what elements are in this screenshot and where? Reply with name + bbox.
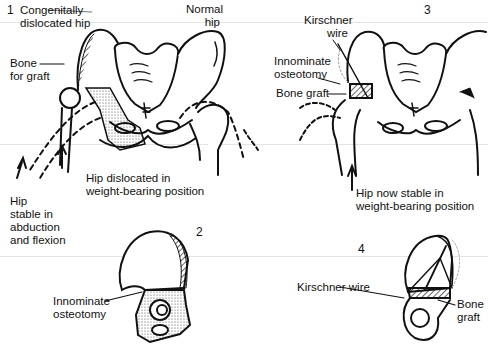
label-kirschner-wire-4: Kirschner wire [297,281,370,294]
label-hip-dislocated: Hip dislocated in weight-bearing positio… [86,172,204,198]
label-kirschner-wire-3: Kirschner wire [304,14,348,40]
label-innominate-osteotomy-2: Innominate osteotomy [53,295,110,321]
panel-1-drawing [17,10,244,178]
panel-3-number: 3 [424,3,431,17]
label-bone-for-graft: Bone for graft [10,57,50,83]
panel-2-drawing [105,231,190,342]
label-innominate-osteotomy-3: Innominate osteotomy [274,55,331,81]
panel-2-number: 2 [196,225,203,239]
label-bone-graft-4: Bone graft [457,298,484,324]
label-hip-stable-abduction: Hip stable in abduction and flexion [10,195,66,247]
label-congenitally-dislocated-hip: Congenitally dislocated hip [20,4,90,30]
label-bone-graft-3: Bone graft [276,87,329,100]
panel-4-number: 4 [358,242,365,256]
panel-1-number: 1 [7,3,14,17]
label-normal-hip: Normal hip [186,3,220,29]
label-hip-now-stable: Hip now stable in weight-bearing positio… [356,187,474,213]
